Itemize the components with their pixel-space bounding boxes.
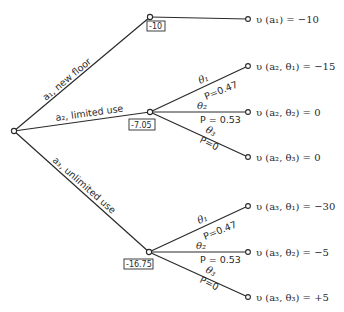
utility-a3-theta2: υ (a₃, θ₂) = −5 [256,247,329,258]
label-a3: a₃, unlimited use [51,154,119,216]
state-a3-theta1: θ₁ [196,212,209,226]
ev-box-a1: -10 [147,21,165,31]
node-a1 [147,14,152,19]
prob-a3-theta2: P = 0.53 [200,254,241,265]
edge-a3 [14,131,149,252]
state-a2-theta1: θ₁ [197,72,210,86]
prob-a3-theta3: P=0 [198,274,221,293]
root-decision-node [11,128,16,133]
edge-a1-leaf [150,17,248,19]
ev-a2: -7.05 [131,121,152,130]
ev-box-a2: -7.05 [129,119,155,130]
prob-a2-theta2: P = 0.53 [200,114,241,125]
chance-node-a3 [146,249,151,254]
state-a2-theta2: θ₂ [197,100,207,111]
leaf-a1 [246,17,251,22]
leaf-a3-theta2 [246,250,251,255]
ev-a1: -10 [149,22,162,31]
leaf-a3-theta1 [246,204,251,209]
utility-a3-theta3: υ (a₃, θ₃) = +5 [256,292,329,303]
leaf-a2-theta2 [246,110,251,115]
label-a1: a₁, new floor [40,56,93,103]
utility-a1: υ (a₁) = −10 [256,14,319,25]
decision-tree: a₁, new floor a₂, limited use a₃, unlimi… [0,0,344,312]
leaf-a2-theta1 [246,64,251,69]
ev-box-a3: -16.75 [124,259,153,269]
utility-a2-theta2: υ (a₂, θ₂) = 0 [256,107,321,118]
utility-a2-theta3: υ (a₂, θ₃) = 0 [256,152,321,163]
leaf-a2-theta3 [246,155,251,160]
prob-a2-theta3: P=0 [198,134,221,153]
utility-a2-theta1: υ (a₂, θ₁) = −15 [256,61,335,72]
leaf-a3-theta3 [246,295,251,300]
chance-node-a2 [147,109,152,114]
state-a3-theta2: θ₂ [196,240,206,251]
utility-a3-theta1: υ (a₃, θ₁) = −30 [256,201,335,212]
ev-a3: -16.75 [126,260,152,269]
